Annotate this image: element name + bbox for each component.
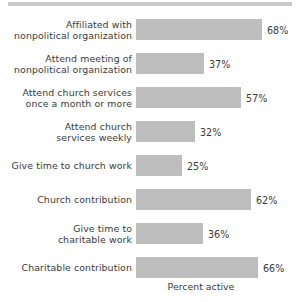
bar-track (136, 155, 182, 176)
bar-value-label: 36% (208, 229, 229, 240)
bar-row: Charitable contribution66% (0, 257, 299, 279)
bar-category-label: Give time to church work (0, 160, 132, 171)
bar (136, 189, 251, 210)
bar-track (136, 257, 258, 278)
bar-value-label: 62% (256, 195, 277, 206)
plot-area: Affiliated with nonpolitical organizatio… (0, 0, 299, 302)
bar-value-label: 32% (200, 127, 221, 138)
bar-row: Give time to church work25% (0, 155, 299, 177)
bar-track (136, 189, 251, 210)
bar-row: Affiliated with nonpolitical organizatio… (0, 19, 299, 41)
bar-row: Attend meeting of nonpolitical organizat… (0, 53, 299, 75)
bar-category-label: Charitable contribution (0, 262, 132, 273)
bar-track (136, 19, 262, 40)
bar-value-label: 25% (187, 161, 208, 172)
bar (136, 257, 258, 278)
bar (136, 53, 204, 74)
bar-track (136, 87, 241, 108)
bar-category-label: Attend church services once a month or m… (0, 87, 132, 109)
bar-category-label: Give time to charitable work (0, 223, 132, 245)
x-axis-title: Percent active (136, 281, 266, 292)
bar-value-label: 57% (246, 93, 267, 104)
bar-track (136, 53, 204, 74)
bar (136, 121, 195, 142)
bar (136, 155, 182, 176)
bar-category-label: Attend meeting of nonpolitical organizat… (0, 53, 132, 75)
bar-track (136, 121, 195, 142)
bar-value-label: 66% (263, 263, 284, 274)
bar (136, 87, 241, 108)
bar-value-label: 37% (209, 59, 230, 70)
bar-category-label: Attend church services weekly (0, 121, 132, 143)
bar (136, 223, 203, 244)
bar-row: Attend church services once a month or m… (0, 87, 299, 109)
bar-category-label: Affiliated with nonpolitical organizatio… (0, 19, 132, 41)
bar-chart-figure: Affiliated with nonpolitical organizatio… (0, 0, 299, 302)
bar-row: Attend church services weekly32% (0, 121, 299, 143)
bar-row: Church contribution62% (0, 189, 299, 211)
bar-track (136, 223, 203, 244)
bar-value-label: 68% (267, 25, 288, 36)
bar-category-label: Church contribution (0, 194, 132, 205)
bar-row: Give time to charitable work36% (0, 223, 299, 245)
bar (136, 19, 262, 40)
